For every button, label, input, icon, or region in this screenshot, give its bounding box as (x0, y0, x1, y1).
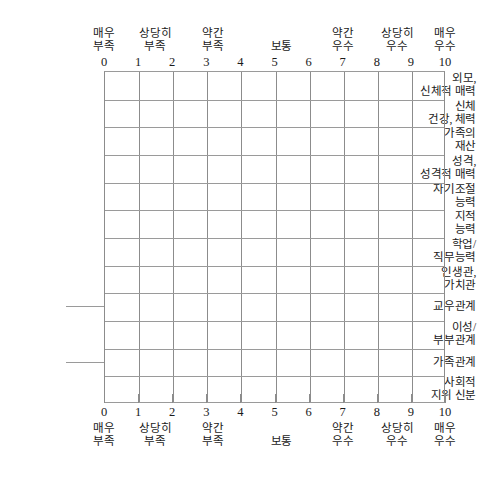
grid-row-line (105, 155, 444, 156)
bottom-axis-tick-stub (104, 394, 105, 403)
grid-column-line (344, 72, 345, 402)
grid-row-line (105, 238, 444, 239)
bottom-anchor-6-line2: 우수 (411, 435, 479, 448)
grid-column-line (412, 72, 413, 402)
top-tick-0: 0 (92, 55, 116, 69)
grid-column-line (378, 72, 379, 402)
grid-row-line (105, 376, 444, 377)
bottom-anchor-3: 보통 (247, 435, 315, 448)
bottom-tick-0: 0 (92, 405, 116, 419)
bottom-tick-5: 5 (263, 405, 287, 419)
bottom-axis-tick-stub (411, 394, 412, 403)
top-anchor-6: 매우우수 (411, 27, 479, 52)
grid-row-line (105, 183, 444, 184)
grid-row-line (105, 127, 444, 128)
bottom-axis-tick-stub (206, 394, 207, 403)
grid-row-line (105, 266, 444, 267)
top-anchor-3-line1: 보통 (247, 40, 315, 53)
grid-row-line (105, 210, 444, 211)
top-tick-5: 5 (263, 55, 287, 69)
top-anchor-6-line1: 매우 (411, 27, 479, 40)
bottom-tick-4: 4 (228, 405, 252, 419)
top-anchor-2-line1: 약간 (179, 27, 247, 40)
grid-row-line (105, 100, 444, 101)
top-tick-1: 1 (126, 55, 150, 69)
rating-sheet: 매우부족상당히부족약간부족보통약간우수상당히우수매우우수 01234567891… (0, 0, 480, 483)
grid-column-line (173, 72, 174, 402)
bottom-anchor-6: 매우우수 (411, 422, 479, 447)
bottom-anchor-2-line1: 약간 (179, 422, 247, 435)
grid-row-line (105, 293, 444, 294)
top-tick-6: 6 (297, 55, 321, 69)
bottom-anchor-6-line1: 매우 (411, 422, 479, 435)
bottom-anchor-2-line2: 부족 (179, 435, 247, 448)
grid-column-line (310, 72, 311, 402)
bottom-tick-7: 7 (331, 405, 355, 419)
top-anchor-6-line2: 우수 (411, 40, 479, 53)
bottom-tick-2: 2 (160, 405, 184, 419)
row-leader-line-10 (66, 362, 104, 363)
top-tick-9: 9 (399, 55, 423, 69)
top-tick-7: 7 (331, 55, 355, 69)
bottom-tick-9: 9 (399, 405, 423, 419)
bottom-axis-tick-stub (138, 394, 139, 403)
bottom-axis-tick-stub (240, 394, 241, 403)
top-tick-4: 4 (228, 55, 252, 69)
bottom-axis-tick-stub (445, 394, 446, 403)
top-tick-2: 2 (160, 55, 184, 69)
rating-grid[interactable] (104, 71, 445, 403)
grid-row-line (105, 321, 444, 322)
top-anchor-2-line2: 부족 (179, 40, 247, 53)
grid-row-line (105, 349, 444, 350)
bottom-axis-tick-stub (377, 394, 378, 403)
grid-column-line (207, 72, 208, 402)
grid-column-line (276, 72, 277, 402)
top-tick-8: 8 (365, 55, 389, 69)
bottom-tick-1: 1 (126, 405, 150, 419)
row-leader-line-8 (66, 306, 104, 307)
bottom-axis-tick-stub (343, 394, 344, 403)
bottom-tick-8: 8 (365, 405, 389, 419)
grid-column-line (139, 72, 140, 402)
top-tick-3: 3 (194, 55, 218, 69)
bottom-anchor-2: 약간부족 (179, 422, 247, 447)
bottom-tick-6: 6 (297, 405, 321, 419)
bottom-axis-tick-stub (309, 394, 310, 403)
bottom-tick-3: 3 (194, 405, 218, 419)
top-anchor-2: 약간부족 (179, 27, 247, 52)
top-anchor-3: 보통 (247, 40, 315, 53)
bottom-axis-tick-stub (172, 394, 173, 403)
grid-column-line (241, 72, 242, 402)
bottom-tick-10: 10 (433, 405, 457, 419)
bottom-axis-tick-stub (275, 394, 276, 403)
bottom-anchor-3-line1: 보통 (247, 435, 315, 448)
top-tick-10: 10 (433, 55, 457, 69)
